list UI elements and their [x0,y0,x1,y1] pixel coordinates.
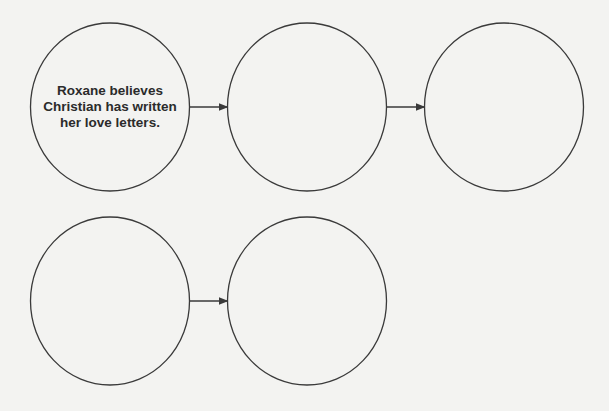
edges-layer [190,107,425,301]
sequence-diagram [0,0,609,411]
diagram-node-3 [425,23,584,191]
diagram-node-5 [228,217,387,385]
diagram-node-2 [228,23,387,191]
diagram-node-1-text: Roxane believes Christian has written he… [40,83,180,131]
nodes-layer [31,23,584,385]
diagram-node-4 [31,217,190,385]
diagram-canvas: Roxane believes Christian has written he… [0,0,609,411]
